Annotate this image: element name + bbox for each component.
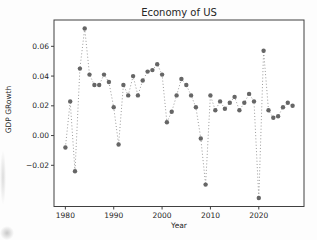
data-point	[107, 80, 111, 84]
data-point	[290, 104, 294, 108]
data-point	[208, 93, 212, 97]
data-point	[136, 93, 140, 97]
data-point	[218, 99, 222, 103]
data-point	[179, 77, 183, 81]
data-point	[83, 26, 87, 30]
data-point	[102, 72, 106, 76]
x-axis-label: Year	[54, 221, 304, 230]
chart-title: Economy of US	[54, 7, 304, 18]
x-tick-label: 1980	[56, 211, 75, 220]
data-point	[276, 114, 280, 118]
data-point	[228, 101, 232, 105]
data-point	[126, 93, 130, 97]
screenshot-root: 19801990200020102020−0.020.000.020.040.0…	[0, 0, 317, 240]
x-tick-label: 2000	[153, 211, 172, 220]
data-point	[223, 107, 227, 111]
x-tick-label: 1990	[104, 211, 123, 220]
data-point	[160, 72, 164, 76]
data-point	[145, 69, 149, 73]
data-point	[63, 145, 67, 149]
data-point	[266, 108, 270, 112]
data-point	[203, 182, 207, 186]
data-point	[92, 83, 96, 87]
data-point	[271, 116, 275, 120]
data-point	[252, 99, 256, 103]
data-point	[116, 142, 120, 146]
x-tick-label: 2020	[249, 211, 268, 220]
x-tick-label: 2010	[201, 211, 220, 220]
data-point	[121, 83, 125, 87]
data-point	[87, 72, 91, 76]
data-point	[155, 62, 159, 66]
y-tick-label: −0.02	[26, 161, 49, 170]
data-point	[174, 93, 178, 97]
data-point	[150, 68, 154, 72]
data-point	[247, 92, 251, 96]
y-tick-label: 0.04	[32, 72, 49, 81]
y-tick-label: 0.00	[32, 131, 49, 140]
data-point	[97, 83, 101, 87]
data-point	[189, 93, 193, 97]
data-point	[257, 196, 261, 200]
data-point	[112, 105, 116, 109]
data-point	[78, 66, 82, 70]
y-tick-label: 0.06	[32, 42, 49, 51]
data-point	[68, 99, 72, 103]
data-point	[261, 49, 265, 53]
gdp-growth-chart: 19801990200020102020−0.020.000.020.040.0…	[0, 0, 317, 240]
data-point	[131, 74, 135, 78]
data-point	[237, 108, 241, 112]
y-axis-label: GDP GRowth	[4, 65, 13, 155]
data-point	[194, 105, 198, 109]
data-point	[232, 95, 236, 99]
plot-area	[54, 20, 304, 207]
y-tick-label: 0.02	[32, 101, 49, 110]
data-point	[73, 169, 77, 173]
data-point	[165, 120, 169, 124]
data-point	[199, 136, 203, 140]
data-point	[170, 110, 174, 114]
data-point	[281, 105, 285, 109]
data-point	[213, 108, 217, 112]
data-point	[141, 78, 145, 82]
data-point	[242, 101, 246, 105]
data-point	[286, 101, 290, 105]
data-point	[184, 83, 188, 87]
